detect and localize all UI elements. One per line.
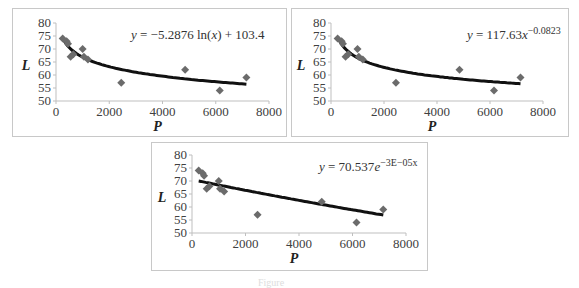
figure-caption: Figure bbox=[258, 277, 284, 288]
svg-text:75: 75 bbox=[38, 28, 51, 43]
data-point bbox=[181, 66, 189, 74]
svg-text:55: 55 bbox=[174, 212, 187, 227]
chart-exp-fit: 5055606570758002000400060008000LPy = 70.… bbox=[151, 142, 428, 271]
svg-text:60: 60 bbox=[313, 67, 326, 82]
x-axis-label: P bbox=[153, 119, 162, 134]
trendline-equation: y = 70.537e−3E−05x bbox=[317, 157, 418, 174]
data-point bbox=[254, 211, 262, 219]
trendline-equation: y = 117.63x−0.0823 bbox=[465, 25, 561, 42]
svg-text:65: 65 bbox=[174, 186, 187, 201]
svg-text:50: 50 bbox=[313, 93, 326, 108]
svg-text:65: 65 bbox=[313, 54, 326, 69]
svg-text:8000: 8000 bbox=[530, 104, 556, 119]
svg-text:8000: 8000 bbox=[393, 236, 419, 251]
data-point bbox=[354, 45, 362, 53]
data-point bbox=[242, 74, 250, 82]
svg-text:0: 0 bbox=[328, 104, 335, 119]
svg-text:2000: 2000 bbox=[96, 104, 122, 119]
data-point bbox=[353, 219, 361, 227]
svg-text:6000: 6000 bbox=[477, 104, 503, 119]
y-axis-label: L bbox=[21, 58, 31, 73]
svg-text:75: 75 bbox=[174, 160, 187, 175]
svg-text:50: 50 bbox=[174, 225, 187, 240]
svg-text:50: 50 bbox=[38, 93, 51, 108]
trendline-equation: y = −5.2876 ln(x) + 103.4 bbox=[129, 27, 265, 42]
svg-text:2000: 2000 bbox=[371, 104, 397, 119]
svg-text:4000: 4000 bbox=[424, 104, 450, 119]
svg-text:55: 55 bbox=[38, 80, 51, 95]
svg-text:60: 60 bbox=[174, 199, 187, 214]
svg-text:8000: 8000 bbox=[256, 104, 282, 119]
data-point bbox=[79, 45, 87, 53]
trendline bbox=[199, 181, 384, 215]
svg-text:2000: 2000 bbox=[233, 236, 259, 251]
data-point bbox=[117, 79, 125, 87]
svg-text:70: 70 bbox=[174, 173, 187, 188]
chart-log-fit: 5055606570758002000400060008000LPy = −5.… bbox=[12, 8, 287, 137]
svg-text:80: 80 bbox=[174, 147, 187, 162]
x-axis-label: P bbox=[290, 251, 299, 266]
data-point bbox=[379, 206, 387, 214]
svg-text:0: 0 bbox=[53, 104, 60, 119]
data-point bbox=[216, 87, 224, 95]
data-point bbox=[456, 66, 464, 74]
svg-text:4000: 4000 bbox=[150, 104, 176, 119]
y-axis-label: L bbox=[296, 58, 306, 73]
svg-text:65: 65 bbox=[38, 54, 51, 69]
x-axis-label: P bbox=[428, 119, 437, 134]
plot-area: 5055606570758002000400060008000LPy = 117… bbox=[292, 9, 568, 136]
svg-text:4000: 4000 bbox=[286, 236, 312, 251]
svg-text:6000: 6000 bbox=[340, 236, 366, 251]
plot-area: 5055606570758002000400060008000LPy = −5.… bbox=[13, 9, 286, 136]
trendline bbox=[63, 38, 247, 84]
svg-text:80: 80 bbox=[313, 15, 326, 30]
svg-text:60: 60 bbox=[38, 67, 51, 82]
plot-area: 5055606570758002000400060008000LPy = 70.… bbox=[152, 143, 427, 270]
data-point bbox=[490, 87, 498, 95]
data-point bbox=[392, 79, 400, 87]
svg-text:80: 80 bbox=[38, 15, 51, 30]
y-axis-label: L bbox=[157, 190, 167, 205]
chart-power-fit: 5055606570758002000400060008000LPy = 117… bbox=[291, 8, 569, 137]
svg-text:70: 70 bbox=[38, 41, 51, 56]
svg-text:6000: 6000 bbox=[203, 104, 229, 119]
svg-text:75: 75 bbox=[313, 28, 326, 43]
svg-text:70: 70 bbox=[313, 41, 326, 56]
svg-text:55: 55 bbox=[313, 80, 326, 95]
svg-text:0: 0 bbox=[189, 236, 196, 251]
data-point bbox=[516, 74, 524, 82]
